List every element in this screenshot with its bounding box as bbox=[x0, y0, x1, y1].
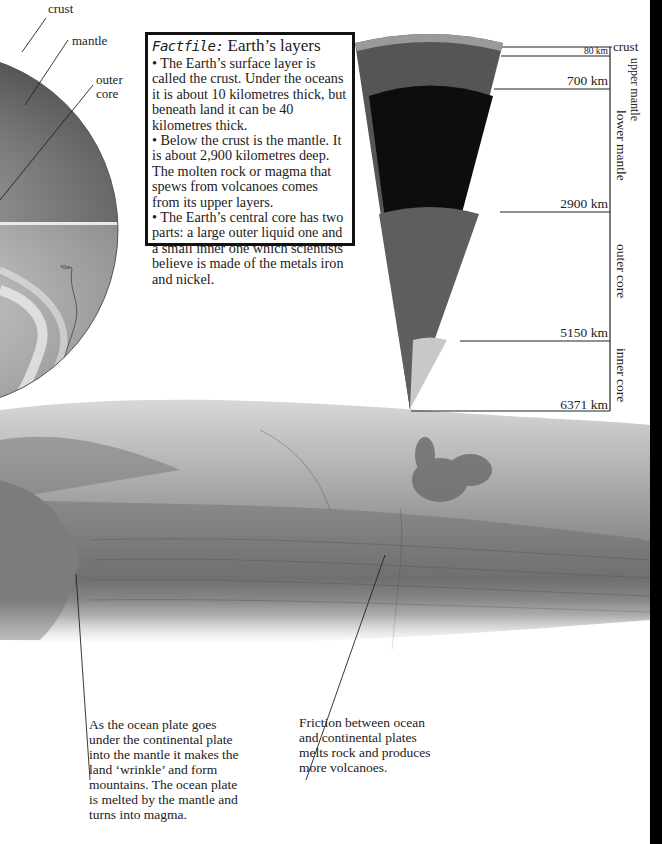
caption-mountains: As the ocean plate goes under the contin… bbox=[89, 717, 239, 822]
caption-volcanoes: Friction between ocean and continental p… bbox=[299, 715, 439, 775]
depth-6371km: 6371 km bbox=[530, 398, 608, 412]
factfile-bullet: • The Earth’s surface layer is called th… bbox=[152, 56, 348, 133]
label-crust: crust bbox=[48, 2, 73, 16]
label-outer-core-2: core bbox=[96, 87, 118, 101]
depth-5150km: 5150 km bbox=[530, 326, 608, 340]
layer-lower-mantle: lower mantle bbox=[614, 110, 628, 181]
layer-inner-core: inner core bbox=[614, 348, 628, 402]
layers-wedge bbox=[355, 34, 503, 409]
factfile-logo: Factfile: bbox=[152, 38, 223, 54]
page-edge-bar bbox=[650, 0, 662, 844]
factfile-bullet: • Below the crust is the mantle. It is a… bbox=[152, 133, 348, 210]
factfile-bullet: • The Earth’s central core has two parts… bbox=[152, 210, 348, 287]
label-mantle: mantle bbox=[72, 34, 107, 48]
factfile-title: Earth’s layers bbox=[228, 36, 321, 55]
depth-700km: 700 km bbox=[540, 74, 608, 88]
layer-upper-mantle: upper mantle bbox=[612, 58, 642, 94]
layer-outer-core: outer core bbox=[614, 244, 628, 298]
factfile-heading: Factfile: Earth’s layers bbox=[152, 37, 348, 55]
label-outer-core: outer bbox=[96, 73, 123, 87]
layer-crust: crust bbox=[613, 40, 638, 54]
depth-2900km: 2900 km bbox=[530, 197, 608, 211]
depth-80km: 80 km bbox=[540, 46, 608, 56]
factfile-box: Factfile: Earth’s layers • The Earth’s s… bbox=[145, 32, 355, 246]
